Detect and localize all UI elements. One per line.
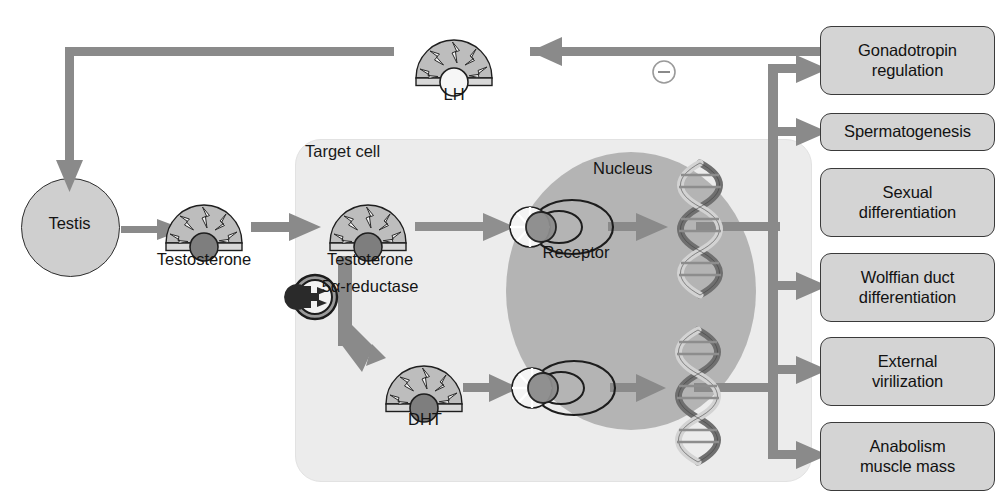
outcome-line: regulation [858, 61, 957, 81]
arrow-testoterone-to-receptor [415, 213, 515, 241]
outcome-line: virilization [872, 372, 943, 392]
testosterone-label: Testosterone [124, 250, 284, 269]
outcome-line: differentiation [859, 203, 956, 223]
receptor-complex-lower-icon [512, 361, 615, 415]
arrow-receptor-to-dna-lower [610, 374, 666, 402]
arrow-receptor-to-dna-upper [608, 213, 668, 241]
diagram-canvas: Testis LH Testosterone Target cell Testo… [0, 0, 1004, 502]
dna-helix-lower-icon [677, 330, 719, 462]
circled-minus-icon [653, 61, 675, 83]
arrow-reductase-to-dht [338, 256, 386, 372]
outcome-line: Anabolism [860, 437, 955, 457]
outcome-box-anabolism-muscle-mass[interactable]: Anabolism muscle mass [820, 422, 995, 491]
outcome-box-spermatogenesis[interactable]: Spermatogenesis [820, 113, 995, 151]
arrow-trunk-lower-stem [694, 383, 776, 392]
outcome-box-gonadotropin-regulation[interactable]: Gonadotropin regulation [820, 26, 995, 95]
nucleus-label: Nucleus [593, 159, 653, 178]
outcome-line: differentiation [859, 288, 956, 308]
outcome-line: External [872, 352, 943, 372]
lh-label: LH [402, 85, 506, 104]
outcome-line: Wolffian duct [859, 268, 956, 288]
outcome-box-sexual-differentiation[interactable]: Sexual differentiation [820, 168, 995, 237]
arrow-feedback-to-lh [530, 37, 822, 66]
receptor-label: Receptor [506, 243, 646, 262]
arrow-testosterone-to-cell [251, 213, 321, 241]
target-cell-label: Target cell [305, 142, 380, 161]
dht-label: DHT [375, 410, 475, 429]
testoterone-label: Testoterone [290, 250, 450, 269]
outcome-line: Spermatogenesis [844, 122, 971, 142]
arrow-lh-to-testis [56, 47, 394, 192]
reductase-label: 5α-reductase [290, 277, 450, 296]
outcome-line: Gonadotropin [858, 41, 957, 61]
outcome-box-external-virilization[interactable]: External virilization [820, 337, 995, 406]
outcome-line: Sexual [859, 183, 956, 203]
outcome-box-wolffian-duct-differentiation[interactable]: Wolffian duct differentiation [820, 253, 995, 322]
arrow-dht-to-receptor [463, 374, 519, 402]
outcome-line: muscle mass [860, 457, 955, 477]
testis-label: Testis [21, 214, 118, 233]
